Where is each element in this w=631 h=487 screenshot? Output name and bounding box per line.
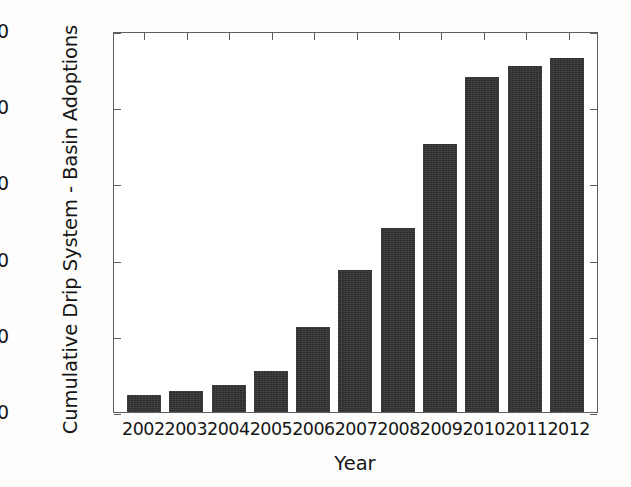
y-tick-right-50: [590, 338, 597, 339]
chart-figure: Cumulative Drip System - Basin Adoptions…: [0, 0, 631, 487]
x-tick-label-2010: 2010: [462, 419, 505, 445]
bar-slot: [334, 33, 376, 412]
plot-area: [113, 32, 598, 413]
bar-2003[interactable]: [169, 391, 203, 412]
y-tick-100: [114, 262, 121, 263]
y-tick-250: [114, 33, 121, 34]
x-tick-label-2011: 2011: [505, 419, 548, 445]
bar-slot: [123, 33, 165, 412]
x-tick-label-2012: 2012: [547, 419, 590, 445]
x-tick-2012: [569, 33, 570, 40]
bar-2004[interactable]: [212, 385, 246, 412]
x-tick-2005: [272, 33, 273, 40]
x-tick-label-2002: 2002: [122, 419, 165, 445]
y-tick-label-50: 50: [0, 327, 9, 346]
bar-2009[interactable]: [423, 144, 457, 412]
bar-slot: [503, 33, 545, 412]
x-tick-2009: [441, 33, 442, 40]
x-tick-2008: [399, 33, 400, 40]
y-tick-label-250: 250: [0, 22, 9, 41]
y-axis-title: Cumulative Drip System - Basin Adoptions: [59, 20, 82, 440]
x-tick-label-2009: 2009: [420, 419, 463, 445]
y-tick-200: [114, 109, 121, 110]
x-tick-label-2008: 2008: [377, 419, 420, 445]
x-tick-label-2004: 2004: [207, 419, 250, 445]
y-tick-label-100: 100: [0, 251, 9, 270]
y-tick-right-200: [590, 109, 597, 110]
bar-slot: [208, 33, 250, 412]
x-tick-label-2007: 2007: [335, 419, 378, 445]
bar-slot: [292, 33, 334, 412]
bar-slot: [377, 33, 419, 412]
x-tick-2004: [229, 33, 230, 40]
bar-2008[interactable]: [381, 228, 415, 412]
y-tick-label-0: 0: [0, 403, 9, 422]
x-axis-tick-labels: 2002200320042005200620072008200920102011…: [113, 419, 598, 445]
y-tick-right-0: [590, 414, 597, 415]
bar-slot: [419, 33, 461, 412]
y-tick-label-150: 150: [0, 174, 9, 193]
x-tick-label-2006: 2006: [292, 419, 335, 445]
y-tick-right-100: [590, 262, 597, 263]
bar-series: [114, 33, 597, 412]
x-tick-label-2005: 2005: [250, 419, 293, 445]
bar-slot: [461, 33, 503, 412]
y-tick-150: [114, 185, 121, 186]
y-tick-right-150: [590, 185, 597, 186]
bar-2007[interactable]: [338, 270, 372, 412]
bar-2002[interactable]: [127, 395, 161, 412]
y-tick-50: [114, 338, 121, 339]
bar-slot: [250, 33, 292, 412]
x-tick-2003: [187, 33, 188, 40]
y-tick-0: [114, 414, 121, 415]
x-tick-2006: [314, 33, 315, 40]
x-tick-2010: [484, 33, 485, 40]
bar-2006[interactable]: [296, 327, 330, 412]
y-tick-label-200: 200: [0, 98, 9, 117]
bar-slot: [546, 33, 588, 412]
bar-slot: [165, 33, 207, 412]
bar-2005[interactable]: [254, 371, 288, 412]
bar-2010[interactable]: [465, 77, 499, 412]
x-tick-2011: [526, 33, 527, 40]
bar-2011[interactable]: [508, 66, 542, 412]
y-tick-right-250: [590, 33, 597, 34]
x-tick-label-2003: 2003: [165, 419, 208, 445]
bar-2012[interactable]: [550, 58, 584, 412]
x-tick-2002: [144, 33, 145, 40]
x-axis-title: Year: [110, 452, 600, 475]
x-tick-2007: [357, 33, 358, 40]
